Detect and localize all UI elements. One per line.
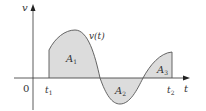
curve-label: v(t) [89, 31, 105, 41]
t2-label: t2 [167, 85, 175, 96]
velocity-area-diagram: v t 0 v(t) t1 t2 A1 A2 A3 [0, 0, 206, 111]
x-axis-label: t [184, 83, 189, 94]
v-axis-arrow-icon [31, 4, 36, 11]
y-axis-label: v [22, 2, 28, 13]
origin-label: 0 [23, 83, 29, 94]
t1-label: t1 [45, 85, 52, 96]
t-axis-arrow-icon [183, 76, 190, 81]
